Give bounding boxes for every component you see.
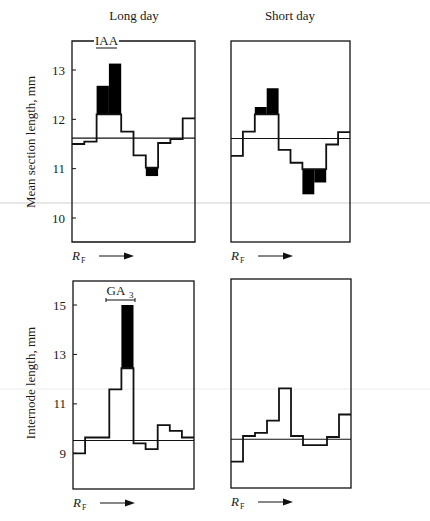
x-axis-label-subscript: F [240,256,245,265]
y-tick-label: 13 [53,347,66,362]
x-axis-label: R [71,248,80,263]
y-axis-title-bottom: Internode length, mm [23,327,38,439]
shaded-bar [109,64,121,115]
shaded-bar [146,168,158,176]
y-tick-label: 15 [53,298,66,313]
x-axis-label-subscript: F [82,503,87,512]
step-line [231,388,351,461]
panel-long-day-ga3: GA39111315RF [53,281,194,512]
y-tick-label: 13 [52,63,65,78]
panel-short-day-iaa: RF [230,41,350,265]
shaded-bar [121,305,133,368]
y-tick-label: 11 [53,396,66,411]
shaded-bar [255,107,267,114]
x-axis-label-subscript: F [81,256,86,265]
annotation-iaa: IAA [95,33,119,48]
y-tick-label: 11 [52,161,65,176]
plot-frame [231,41,350,242]
y-tick-label: 9 [60,446,67,461]
figure: Long day Short day IAA10111213RF RF GA39… [0,0,430,521]
x-axis-label: R [230,248,239,263]
x-axis-label-subscript: F [240,502,245,511]
column-title-short-day: Short day [265,8,316,23]
arrow-right-icon [283,253,293,260]
arrow-right-icon [283,499,293,506]
annotation-ga3: GA [107,283,126,298]
annotation-ga3-subscript: 3 [129,290,134,300]
arrow-right-icon [124,253,134,260]
y-axis-title-top: Mean section length, mm [23,76,38,208]
shaded-bar [314,169,326,182]
column-title-long-day: Long day [109,8,159,23]
y-tick-label: 10 [52,211,65,226]
panel-long-day-iaa: IAA10111213RF [52,33,195,265]
arrow-right-icon [125,500,135,507]
x-axis-label: R [72,495,81,510]
shaded-bar [302,169,314,194]
plot-frame [231,279,351,488]
y-tick-label: 12 [52,112,65,127]
shaded-bar [97,86,109,115]
panel-short-day-ga3: RF [230,279,351,511]
step-line [231,114,350,169]
shaded-bar [267,88,279,114]
x-axis-label: R [230,494,239,509]
